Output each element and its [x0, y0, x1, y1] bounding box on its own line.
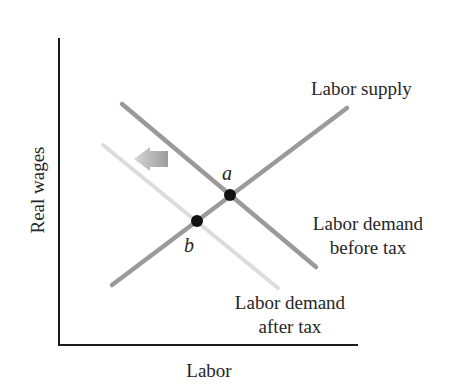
labor-supply-label: Labor supply	[311, 78, 412, 99]
labor-demand-after-tax-curve	[103, 145, 278, 288]
left-arrow-icon	[134, 147, 168, 171]
labor-demand-before-tax-label-line1: Labor demand	[298, 213, 438, 234]
labor-demand-before-tax-label-line2: before tax	[298, 237, 438, 258]
labor-demand-before-tax-label: Labor demand before tax	[298, 213, 438, 258]
labor-demand-after-tax-label-line2: after tax	[220, 316, 360, 337]
point-a-label: a	[222, 163, 232, 184]
point-b-label: b	[184, 235, 194, 256]
equilibrium-point-b	[191, 215, 203, 227]
y-axis-label: Real wages	[27, 146, 49, 233]
equilibrium-point-a	[224, 189, 236, 201]
labor-demand-after-tax-label: Labor demand after tax	[220, 292, 360, 337]
x-axis-label: Labor	[174, 360, 244, 381]
labor-demand-after-tax-label-line1: Labor demand	[220, 292, 360, 313]
